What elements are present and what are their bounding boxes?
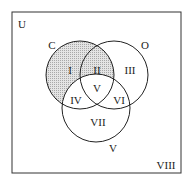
set-label-o: O	[141, 39, 149, 51]
region-label-iv: IV	[70, 94, 82, 106]
region-label-iii: III	[125, 64, 136, 76]
region-label-v: V	[93, 82, 101, 94]
set-label-c: C	[48, 39, 55, 51]
region-label-vi: VI	[113, 94, 125, 106]
universe-label: U	[18, 18, 26, 30]
set-label-v: V	[109, 142, 117, 154]
region-label-vii: VII	[90, 116, 106, 128]
region-label-i: I	[68, 64, 72, 76]
venn-diagram: U C O V I II III IV V VI VII VIII	[0, 0, 189, 183]
region-label-viii: VIII	[157, 159, 176, 171]
region-label-ii: II	[93, 64, 101, 76]
